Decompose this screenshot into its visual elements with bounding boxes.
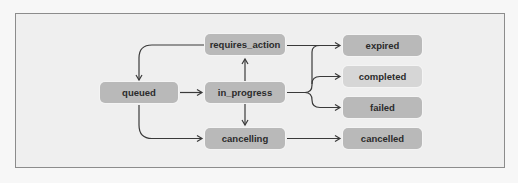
edge-queued-cancelling <box>139 105 202 139</box>
edge-in-progress-failed <box>305 93 340 108</box>
node-label: failed <box>370 102 395 113</box>
node-queued: queued <box>100 82 178 103</box>
node-cancelled: cancelled <box>343 128 422 149</box>
node-in-progress: in_progress <box>205 82 285 103</box>
node-label: cancelled <box>361 133 404 144</box>
node-label: completed <box>359 71 407 82</box>
edge-in-progress-branch <box>287 46 320 93</box>
node-requires-action: requires_action <box>205 34 285 55</box>
node-expired: expired <box>343 35 422 56</box>
node-failed: failed <box>343 97 422 118</box>
node-label: cancelling <box>222 133 268 144</box>
node-label: requires_action <box>210 39 281 50</box>
node-cancelling: cancelling <box>205 128 285 149</box>
edge-requires-action-queued <box>139 45 204 80</box>
edge-in-progress-completed <box>312 77 340 85</box>
node-label: expired <box>366 40 400 51</box>
node-label: in_progress <box>218 87 272 98</box>
node-label: queued <box>122 87 156 98</box>
node-completed: completed <box>343 66 422 87</box>
